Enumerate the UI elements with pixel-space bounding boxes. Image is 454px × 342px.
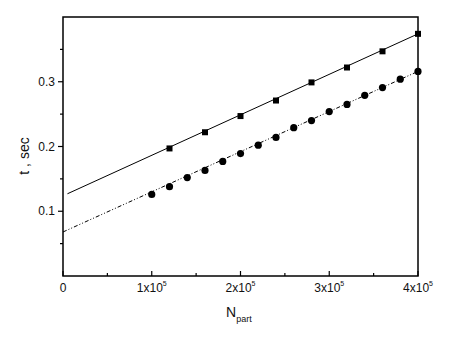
x-tick-exponent: 5 [252, 280, 256, 287]
circle-marker [166, 183, 173, 190]
x-tick-label: 0 [60, 281, 67, 295]
plot-frame [63, 17, 418, 276]
circle-marker [379, 84, 386, 91]
square-marker [415, 31, 421, 37]
y-tick-label: 0.2 [38, 140, 55, 154]
chart: 01x1052x1053x1054x105 0.10.20.3 Npart t … [0, 0, 454, 342]
square-marker [309, 79, 315, 85]
circle-marker [290, 124, 297, 131]
circle-marker [343, 101, 350, 108]
y-tick-label: 0.3 [38, 75, 55, 89]
circle-marker [326, 108, 333, 115]
circle-marker [255, 142, 262, 149]
square-marker [380, 48, 386, 54]
y-axis-title: t , sec [16, 137, 32, 174]
circle-marker [414, 68, 421, 75]
data-markers [148, 31, 421, 198]
x-tick-label: 1x105 [137, 280, 167, 295]
circle-marker [308, 117, 315, 124]
circle-marker [397, 76, 404, 83]
x-tick-exponent: 5 [340, 280, 344, 287]
square-marker [344, 65, 350, 71]
y-tick-label: 0.1 [38, 204, 55, 218]
x-axis-ticks: 01x1052x1053x1054x105 [60, 271, 433, 295]
x-tick-label: 3x105 [314, 280, 344, 295]
y-axis-ticks: 0.10.20.3 [38, 49, 63, 243]
circle-marker [219, 158, 226, 165]
circle-marker [148, 191, 155, 198]
square-marker [273, 98, 279, 104]
x-axis-title-subscript: part [236, 314, 252, 324]
circle-marker [272, 134, 279, 141]
square-marker [238, 113, 244, 119]
x-tick-exponent: 5 [163, 280, 167, 287]
circle-marker [361, 92, 368, 99]
circle-marker [237, 150, 244, 157]
circle-marker [201, 167, 208, 174]
x-axis-title: Npart [226, 304, 252, 324]
square-marker [202, 129, 208, 135]
circle-marker [184, 174, 191, 181]
plot-border [63, 17, 418, 276]
x-tick-label: 2x105 [226, 280, 256, 295]
x-tick-label: 4x105 [403, 280, 433, 295]
fit-lines [63, 34, 418, 232]
square-marker [167, 145, 173, 151]
x-axis-title-main: N [226, 304, 236, 320]
x-tick-exponent: 5 [429, 280, 433, 287]
